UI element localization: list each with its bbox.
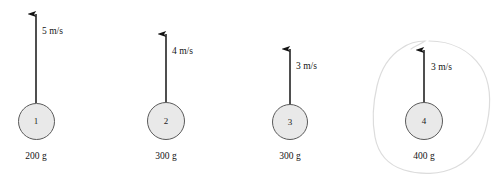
ball-number-1: 1 bbox=[34, 117, 39, 126]
mass-label-1: 200 g bbox=[6, 152, 66, 162]
ball-circle-2: 2 bbox=[147, 102, 185, 140]
speed-label-1: 5 m/s bbox=[42, 27, 63, 37]
mass-label-4: 400 g bbox=[394, 152, 454, 162]
speed-label-2: 4 m/s bbox=[172, 47, 193, 57]
ball-number-2: 2 bbox=[164, 117, 169, 126]
mass-label-2: 300 g bbox=[136, 152, 196, 162]
physics-diagram: 1 5 m/s 200 g 2 4 m/s 300 g 3 3 m/s 300 … bbox=[0, 0, 498, 182]
ball-circle-3: 3 bbox=[272, 104, 308, 140]
ball-circle-1: 1 bbox=[18, 103, 55, 140]
speed-label-4: 3 m/s bbox=[431, 63, 452, 73]
speed-label-3: 3 m/s bbox=[296, 62, 317, 72]
ball-number-3: 3 bbox=[288, 118, 293, 127]
mass-label-3: 300 g bbox=[260, 152, 320, 162]
ball-number-4: 4 bbox=[422, 117, 427, 126]
ball-circle-4: 4 bbox=[405, 102, 443, 140]
